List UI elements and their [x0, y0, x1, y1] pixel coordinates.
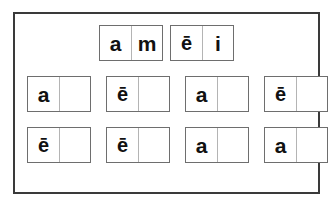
letter-cell[interactable] — [138, 128, 169, 162]
letter-cell[interactable]: ē — [107, 128, 138, 162]
word-box[interactable]: a — [185, 127, 249, 163]
word-box[interactable]: ē — [27, 127, 91, 163]
word-box[interactable]: a — [264, 127, 328, 163]
letter-cell[interactable] — [217, 77, 248, 111]
letter-cell[interactable]: i — [202, 26, 233, 60]
letter-cell[interactable]: ē — [171, 26, 202, 60]
letter-cell[interactable] — [59, 77, 90, 111]
word-box[interactable]: ē — [264, 76, 328, 112]
worksheet-row-3: ē ē a a — [15, 127, 318, 163]
letter-cell[interactable] — [59, 128, 90, 162]
page-title: Worksheet 1 — [6, 0, 85, 3]
letter-cell[interactable]: a — [28, 77, 59, 111]
letter-cell[interactable] — [217, 128, 248, 162]
letter-cell[interactable]: ē — [28, 128, 59, 162]
worksheet-frame: a m ē i a ē a ē ē ē — [13, 12, 320, 194]
word-box[interactable]: a — [27, 76, 91, 112]
word-box[interactable]: ē i — [170, 25, 234, 61]
letter-cell[interactable]: ē — [265, 77, 296, 111]
letter-cell[interactable]: a — [100, 26, 131, 60]
letter-cell[interactable]: a — [265, 128, 296, 162]
word-box[interactable]: ē — [106, 127, 170, 163]
letter-cell[interactable]: a — [186, 128, 217, 162]
worksheet-row-2: a ē a ē — [15, 76, 318, 112]
letter-cell[interactable]: a — [186, 77, 217, 111]
word-box[interactable]: ē — [106, 76, 170, 112]
worksheet-row-1: a m ē i — [15, 25, 318, 61]
letter-cell[interactable]: ē — [107, 77, 138, 111]
letter-cell[interactable] — [138, 77, 169, 111]
letter-cell[interactable]: m — [131, 26, 162, 60]
word-box[interactable]: a m — [99, 25, 163, 61]
word-box[interactable]: a — [185, 76, 249, 112]
letter-cell[interactable] — [296, 128, 327, 162]
letter-cell[interactable] — [296, 77, 327, 111]
